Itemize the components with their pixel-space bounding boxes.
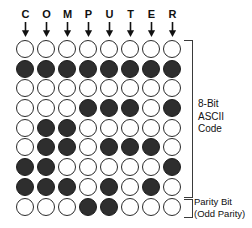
- bit-cell-r4-c6-filled: [121, 99, 139, 117]
- down-arrow-4: [100, 22, 119, 38]
- bit-cell-r2-c8-filled: [163, 60, 181, 78]
- column-letter-o-1: O: [37, 8, 56, 20]
- bit-cell-r2-c4-filled: [79, 60, 97, 78]
- bit-cell-r8-c4-empty: [79, 178, 97, 196]
- bit-cell-r2-c2-filled: [37, 60, 55, 78]
- bit-cell-r7-c4-empty: [79, 158, 97, 176]
- bit-cell-r5-c5-empty: [100, 119, 118, 137]
- bit-cell-r6-c8-empty: [163, 138, 181, 156]
- bit-cell-r9-c4-filled: [79, 198, 97, 216]
- bit-cell-r8-c2-filled: [37, 178, 55, 196]
- bit-cell-r3-c5-empty: [100, 79, 118, 97]
- bit-cell-r6-c1-empty: [16, 138, 34, 156]
- down-arrow-2: [58, 22, 77, 38]
- bit-cell-r2-c5-filled: [100, 60, 118, 78]
- down-arrow-3: [79, 22, 98, 38]
- parity-label-line-2: (Odd Parity): [194, 208, 245, 220]
- bit-cell-r1-c3-empty: [58, 40, 76, 58]
- bit-cell-r5-c1-empty: [16, 119, 34, 137]
- bit-cell-r4-c1-empty: [16, 99, 34, 117]
- bit-cell-r1-c1-empty: [16, 40, 34, 58]
- bit-cell-r4-c3-empty: [58, 99, 76, 117]
- bit-cell-r7-c8-filled: [163, 158, 181, 176]
- down-arrow-6: [142, 22, 161, 38]
- down-arrow-5: [121, 22, 140, 38]
- bit-cell-r6-c6-filled: [121, 138, 139, 156]
- bit-cell-r3-c6-empty: [121, 79, 139, 97]
- bit-cell-r3-c1-empty: [16, 79, 34, 97]
- bit-cell-r9-c7-empty: [142, 198, 160, 216]
- bit-cell-r7-c6-empty: [121, 158, 139, 176]
- column-letter-t-5: T: [121, 8, 140, 20]
- bit-cell-r7-c1-filled: [16, 158, 34, 176]
- column-letter-r-7: R: [163, 8, 182, 20]
- bit-cell-r5-c8-empty: [163, 119, 181, 137]
- bit-cell-r1-c7-empty: [142, 40, 160, 58]
- bit-cell-r4-c7-empty: [142, 99, 160, 117]
- ascii-label-line-3: Code: [198, 123, 224, 136]
- bit-cell-r8-c6-empty: [121, 178, 139, 196]
- bit-cell-r6-c5-filled: [100, 138, 118, 156]
- bit-cell-r1-c4-empty: [79, 40, 97, 58]
- bit-cell-r8-c3-filled: [58, 178, 76, 196]
- column-letter-u-4: U: [100, 8, 119, 20]
- ascii-label-line-2: ASCII: [198, 111, 224, 124]
- bit-cell-r9-c1-empty: [16, 198, 34, 216]
- down-arrow-0: [16, 22, 35, 38]
- ascii-parity-diagram: COMPUTER 8-Bit ASCII Code Parity Bit (Od…: [0, 0, 252, 228]
- bit-cell-r9-c3-empty: [58, 198, 76, 216]
- bit-cell-r8-c1-filled: [16, 178, 34, 196]
- bit-cell-r8-c8-empty: [163, 178, 181, 196]
- column-letter-p-3: P: [79, 8, 98, 20]
- bit-cell-r7-c2-filled: [37, 158, 55, 176]
- bit-cell-r5-c7-empty: [142, 119, 160, 137]
- bit-cell-r2-c3-filled: [58, 60, 76, 78]
- bit-cell-r6-c3-filled: [58, 138, 76, 156]
- bit-cell-r9-c5-filled: [100, 198, 118, 216]
- ascii-label-line-1: 8-Bit: [198, 98, 224, 111]
- bit-cell-r9-c8-empty: [163, 198, 181, 216]
- bit-cell-r3-c2-empty: [37, 79, 55, 97]
- ascii-code-bracket: [184, 40, 193, 198]
- ascii-code-label: 8-Bit ASCII Code: [198, 98, 224, 136]
- parity-label-line-1: Parity Bit: [194, 196, 245, 208]
- bit-cell-r5-c6-empty: [121, 119, 139, 137]
- bit-cell-r4-c5-filled: [100, 99, 118, 117]
- bit-cell-r4-c2-empty: [37, 99, 55, 117]
- bit-cell-r7-c7-empty: [142, 158, 160, 176]
- bit-cell-r7-c3-empty: [58, 158, 76, 176]
- bit-cell-r1-c5-empty: [100, 40, 118, 58]
- bit-cell-r6-c2-filled: [37, 138, 55, 156]
- down-arrow-1: [37, 22, 56, 38]
- bit-cell-r1-c2-empty: [37, 40, 55, 58]
- bit-cell-r2-c6-filled: [121, 60, 139, 78]
- bit-cell-r5-c3-filled: [58, 119, 76, 137]
- bit-cell-r1-c8-empty: [163, 40, 181, 58]
- bit-cell-r4-c4-filled: [79, 99, 97, 117]
- bit-cell-r5-c4-empty: [79, 119, 97, 137]
- bit-cell-r7-c5-empty: [100, 158, 118, 176]
- bit-cell-r5-c2-filled: [37, 119, 55, 137]
- parity-bit-label: Parity Bit (Odd Parity): [194, 196, 245, 220]
- bit-cell-r3-c8-empty: [163, 79, 181, 97]
- bit-cell-r1-c6-empty: [121, 40, 139, 58]
- bit-cell-r3-c4-empty: [79, 79, 97, 97]
- bit-cell-r8-c7-filled: [142, 178, 160, 196]
- column-letter-m-2: M: [58, 8, 77, 20]
- parity-bit-bracket: [184, 199, 193, 218]
- bit-cell-r3-c7-empty: [142, 79, 160, 97]
- bit-cell-r3-c3-empty: [58, 79, 76, 97]
- bit-cell-r6-c7-filled: [142, 138, 160, 156]
- bit-cell-r9-c2-empty: [37, 198, 55, 216]
- column-letter-e-6: E: [142, 8, 161, 20]
- bit-cell-r2-c1-filled: [16, 60, 34, 78]
- bit-cell-r2-c7-filled: [142, 60, 160, 78]
- bit-cell-r6-c4-empty: [79, 138, 97, 156]
- bit-cell-r9-c6-empty: [121, 198, 139, 216]
- column-letter-c-0: C: [16, 8, 35, 20]
- bit-cell-r8-c5-filled: [100, 178, 118, 196]
- bit-cell-r4-c8-filled: [163, 99, 181, 117]
- down-arrow-7: [163, 22, 182, 38]
